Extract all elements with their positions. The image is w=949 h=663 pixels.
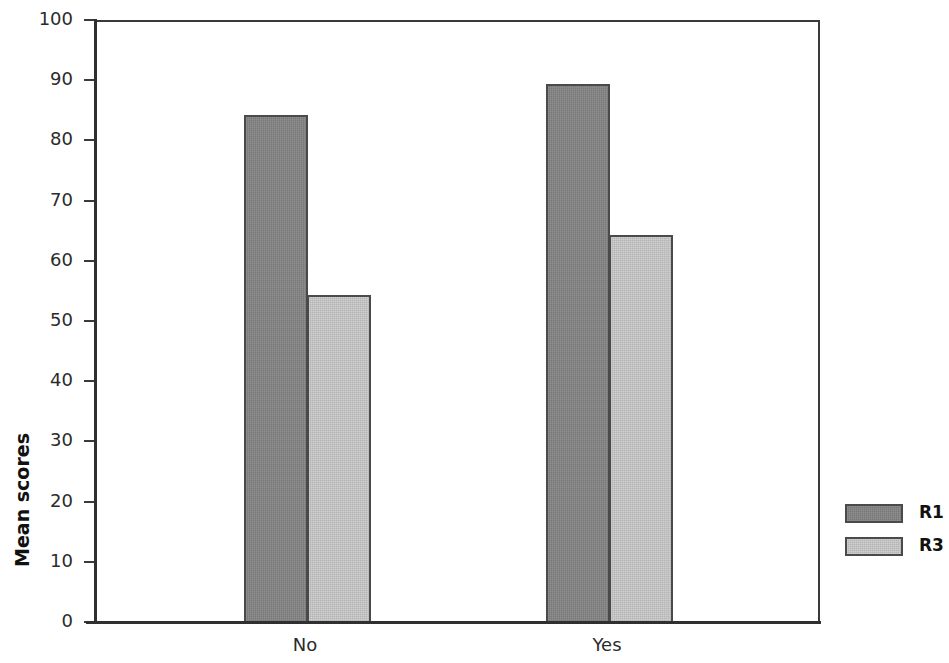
bar-r1-no (244, 115, 308, 624)
plot-area (95, 20, 820, 623)
y-axis-title: Mean scores (9, 430, 35, 570)
bar-r1-yes (546, 84, 610, 624)
y-tick-label: 40 (50, 369, 73, 390)
legend-item-r3: R3 (843, 533, 949, 566)
y-tick-label: 70 (50, 189, 73, 210)
bar-chart: Mean scores 1009080706050403020100 NoYes… (0, 0, 949, 663)
y-tick-label: 100 (39, 8, 73, 29)
legend-label-r1: R1 (919, 502, 944, 522)
y-tick-label: 80 (50, 128, 73, 149)
bar-r3-yes (609, 235, 673, 624)
legend-label-r3: R3 (919, 535, 944, 555)
legend-item-r1: R1 (843, 500, 949, 533)
legend: R1R3 (843, 500, 949, 566)
y-tick-label: 10 (50, 550, 73, 571)
y-tick-label: 0 (62, 610, 73, 631)
legend-swatch-r1 (845, 504, 903, 523)
legend-swatch-r3 (845, 537, 903, 556)
y-tick-label: 20 (50, 490, 73, 511)
x-axis-label-yes: Yes (527, 634, 687, 655)
bar-r3-no (307, 295, 371, 624)
y-tick-label: 30 (50, 429, 73, 450)
x-axis-line (86, 621, 821, 624)
y-tick-label: 90 (50, 68, 73, 89)
x-axis-label-no: No (225, 634, 385, 655)
y-axis-line (94, 19, 97, 624)
y-tick-label: 50 (50, 309, 73, 330)
y-tick-label: 60 (50, 249, 73, 270)
